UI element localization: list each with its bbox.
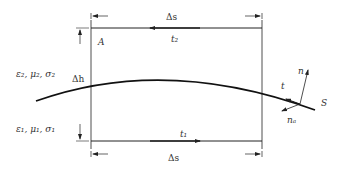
- delta-s-bottom-label: Δs: [168, 153, 179, 163]
- s-label: S: [321, 98, 327, 108]
- point-a-label: A: [97, 37, 105, 47]
- na-label: nₐ: [287, 115, 296, 125]
- delta-h-label: Δh: [72, 74, 84, 84]
- n-label: n: [298, 66, 304, 76]
- t-label: t: [281, 81, 285, 91]
- delta-h-dimension: [76, 28, 89, 141]
- t1-label: t₁: [180, 129, 187, 139]
- medium2-label: ε₂, μ₂, σ₂: [16, 69, 55, 79]
- normal-na-arrow-line: [282, 104, 300, 111]
- medium1-label: ε₁, μ₁, σ₁: [16, 124, 55, 134]
- delta-s-top-label: Δs: [166, 12, 177, 22]
- t2-label: t₂: [171, 34, 179, 44]
- boundary-curve-s: [36, 80, 315, 110]
- boundary-diagram: ε₂, μ₂, σ₂ ε₁, μ₁, σ₁ Δh Δs Δs A t₂ t₁ t…: [0, 0, 339, 169]
